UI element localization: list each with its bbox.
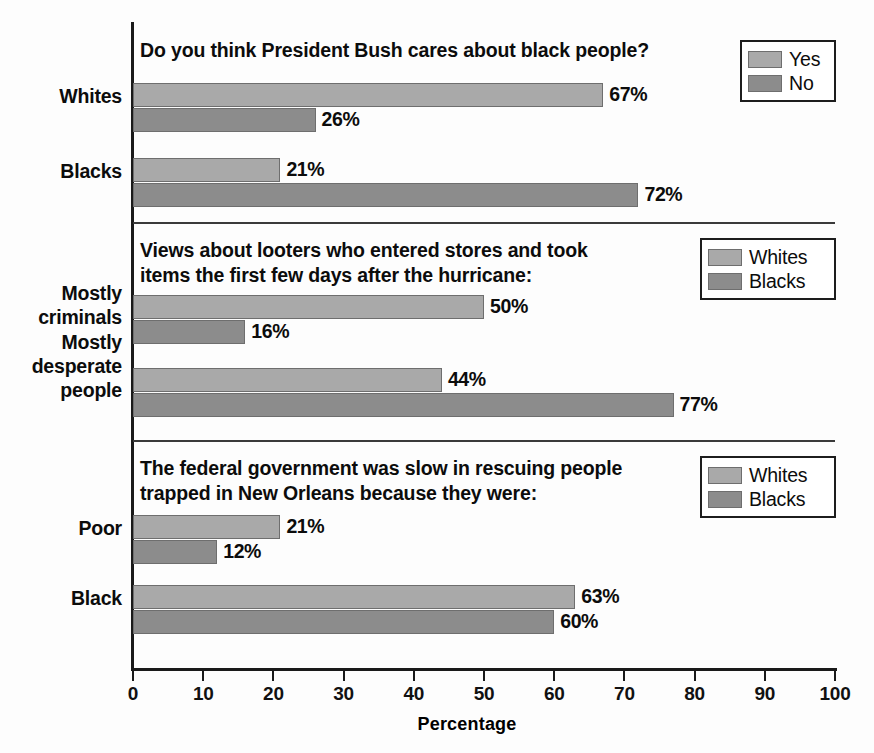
x-axis-tick <box>343 671 345 681</box>
legend-swatch-icon <box>708 491 742 508</box>
bar[interactable] <box>133 368 442 392</box>
x-axis-tick <box>694 671 696 681</box>
bar[interactable] <box>133 295 484 319</box>
legend-swatch-icon <box>748 51 782 68</box>
panel-title: Views about looters who entered stores a… <box>140 238 588 288</box>
panel-divider-2 <box>133 440 835 442</box>
bar-value-label: 21% <box>286 515 324 538</box>
x-axis-tick-label: 40 <box>404 683 425 705</box>
x-axis-tick-label: 20 <box>263 683 284 705</box>
x-axis-tick-label: 10 <box>193 683 214 705</box>
legend-item[interactable]: Whites <box>708 463 826 487</box>
panel-title: Do you think President Bush cares about … <box>140 38 649 63</box>
x-axis-title: Percentage <box>0 714 874 735</box>
legend-swatch-icon <box>708 273 742 290</box>
bar[interactable] <box>133 540 217 564</box>
bar[interactable] <box>133 83 603 107</box>
legend-label: No <box>789 72 814 94</box>
x-axis-tick <box>202 671 204 681</box>
bar-value-label: 60% <box>560 610 598 633</box>
legend-label: Whites <box>749 464 807 486</box>
x-axis-tick-label: 70 <box>614 683 635 705</box>
legend-item[interactable]: Blacks <box>708 269 826 293</box>
bar[interactable] <box>133 393 674 417</box>
bar-value-label: 72% <box>644 183 682 206</box>
legend-swatch-icon <box>708 467 742 484</box>
bar[interactable] <box>133 320 245 344</box>
bar[interactable] <box>133 610 554 634</box>
x-axis-tick <box>483 671 485 681</box>
bar-value-label: 67% <box>609 83 647 106</box>
category-label: Whites <box>0 84 122 108</box>
x-axis-tick-label: 80 <box>684 683 705 705</box>
legend: WhitesBlacks <box>700 238 836 300</box>
x-axis-tick-label: 0 <box>128 683 138 705</box>
x-axis-tick <box>623 671 625 681</box>
legend: WhitesBlacks <box>700 456 836 518</box>
x-axis-tick-label: 60 <box>544 683 565 705</box>
x-axis-tick-label: 100 <box>820 683 851 705</box>
x-axis-title-text: Percentage <box>417 714 516 735</box>
bar-value-label: 26% <box>322 108 360 131</box>
legend-label: Yes <box>789 48 820 70</box>
bar[interactable] <box>133 108 316 132</box>
bar[interactable] <box>133 585 575 609</box>
category-label: Poor <box>0 516 122 540</box>
x-axis-tick-label: 30 <box>333 683 354 705</box>
x-axis-tick <box>272 671 274 681</box>
bar-value-label: 50% <box>490 295 528 318</box>
chart-canvas: 0102030405060708090100 Percentage Do you… <box>0 0 874 753</box>
x-axis-tick <box>132 671 134 681</box>
bar[interactable] <box>133 515 280 539</box>
bar[interactable] <box>133 158 280 182</box>
x-axis-tick-label: 90 <box>755 683 776 705</box>
legend-label: Blacks <box>749 488 805 510</box>
legend-swatch-icon <box>708 249 742 266</box>
legend-label: Blacks <box>749 270 805 292</box>
bar-value-label: 21% <box>286 158 324 181</box>
panel-divider-1 <box>133 222 835 224</box>
bar-value-label: 77% <box>680 393 718 416</box>
legend: YesNo <box>740 40 836 102</box>
legend-item[interactable]: Blacks <box>708 487 826 511</box>
legend-item[interactable]: Yes <box>748 47 826 71</box>
x-axis-tick <box>553 671 555 681</box>
panel-title: The federal government was slow in rescu… <box>140 456 622 506</box>
category-label: Mostly criminals <box>0 281 122 329</box>
category-label: Mostly desperate people <box>0 330 122 402</box>
x-axis-tick-label: 50 <box>474 683 495 705</box>
bar[interactable] <box>133 183 638 207</box>
bar-value-label: 63% <box>581 585 619 608</box>
legend-label: Whites <box>749 246 807 268</box>
x-axis-tick <box>413 671 415 681</box>
bar-value-label: 44% <box>448 368 486 391</box>
bar-value-label: 12% <box>223 540 261 563</box>
category-label: Black <box>0 586 122 610</box>
legend-item[interactable]: Whites <box>708 245 826 269</box>
bar-value-label: 16% <box>251 320 289 343</box>
category-label: Blacks <box>0 159 122 183</box>
x-axis-tick <box>764 671 766 681</box>
legend-swatch-icon <box>748 75 782 92</box>
legend-item[interactable]: No <box>748 71 826 95</box>
x-axis-tick <box>834 671 836 681</box>
